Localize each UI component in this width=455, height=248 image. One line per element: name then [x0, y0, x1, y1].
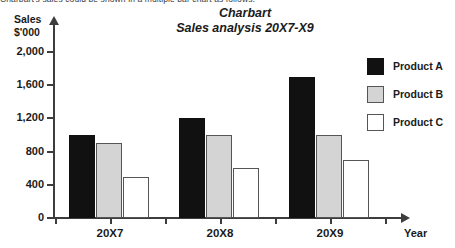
x-tick-mark: [385, 217, 387, 224]
legend-label-product-a: Product A: [393, 60, 443, 72]
bar-20x9-product-a: [289, 77, 315, 218]
bar-20x8-product-c: [233, 168, 259, 218]
y-tick-label: 1,600: [0, 78, 44, 90]
y-tick-label: 1,200: [0, 111, 44, 123]
x-tick-mark: [275, 217, 277, 224]
y-axis-caption-line2: $'000: [14, 26, 41, 39]
x-category-label: 20X8: [185, 227, 255, 239]
chart-title: Charbart Sales analysis 20X7-X9: [150, 6, 340, 36]
bar-20x7-product-b: [96, 143, 122, 218]
bar-20x9-product-c: [343, 160, 369, 218]
y-tick-label: 2,000: [0, 45, 44, 57]
legend-item-product-b: Product B: [367, 80, 443, 108]
y-axis-line: [53, 24, 55, 219]
bar-20x7-product-a: [69, 135, 95, 218]
bar-20x8-product-b: [206, 135, 232, 218]
gray-square-swatch-icon: [367, 86, 384, 103]
x-category-label: 20X9: [295, 227, 365, 239]
legend-label-product-c: Product C: [393, 116, 443, 128]
bar-20x8-product-a: [179, 118, 205, 218]
legend-item-product-c: Product C: [367, 108, 443, 136]
x-tick-mark: [55, 217, 57, 224]
top-caption-text: Charbart's sales could be shown in a mul…: [0, 0, 455, 4]
legend-item-product-a: Product A: [367, 52, 443, 80]
x-category-label: 20X7: [75, 227, 145, 239]
chart-screenshot: Charbart's sales could be shown in a mul…: [0, 0, 455, 248]
legend-label-product-b: Product B: [393, 88, 443, 100]
y-axis-caption-line1: Sales: [14, 13, 41, 26]
bar-20x7-product-c: [123, 177, 149, 219]
x-axis-arrow-icon: [401, 213, 410, 223]
x-tick-mark: [110, 217, 112, 224]
x-tick-mark: [220, 217, 222, 224]
y-axis-caption: Sales $'000: [14, 13, 41, 39]
black-square-swatch-icon: [367, 58, 384, 75]
bar-20x9-product-b: [316, 135, 342, 218]
y-tick-label: 0: [0, 211, 44, 223]
y-axis-arrow-icon: [49, 16, 59, 25]
y-tick-label: 400: [0, 178, 44, 190]
chart-legend: Product A Product B Product C: [367, 52, 443, 136]
chart-subtitle: Sales analysis 20X7-X9: [150, 21, 340, 36]
x-axis-caption: Year: [404, 227, 427, 239]
y-tick-label: 800: [0, 145, 44, 157]
x-tick-mark: [330, 217, 332, 224]
white-square-swatch-icon: [367, 114, 384, 131]
chart-title-main: Charbart: [150, 6, 340, 21]
x-tick-mark: [165, 217, 167, 224]
